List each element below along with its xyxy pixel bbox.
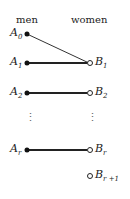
label-b2: B2	[95, 85, 108, 100]
ellipsis-right: ⋮	[87, 111, 98, 124]
node-a1	[25, 61, 30, 66]
label-a0: A0	[10, 26, 22, 41]
label-a2: A2	[10, 85, 22, 100]
label-ar: Ar	[10, 142, 21, 157]
node-b1	[88, 61, 93, 66]
node-a2	[25, 91, 30, 96]
node-b2	[88, 91, 93, 96]
label-a1: A1	[10, 55, 22, 70]
label-br1: Br +1	[95, 168, 119, 183]
edge-a0-b1	[27, 34, 89, 63]
label-br: Br	[95, 142, 106, 157]
ellipsis-left: ⋮	[25, 111, 36, 124]
node-ar	[25, 148, 30, 153]
node-a0	[25, 32, 30, 37]
header-men: men	[16, 14, 38, 25]
node-br1	[88, 174, 93, 179]
label-b1: B1	[95, 55, 108, 70]
node-br	[88, 148, 93, 153]
header-women: women	[71, 14, 107, 25]
